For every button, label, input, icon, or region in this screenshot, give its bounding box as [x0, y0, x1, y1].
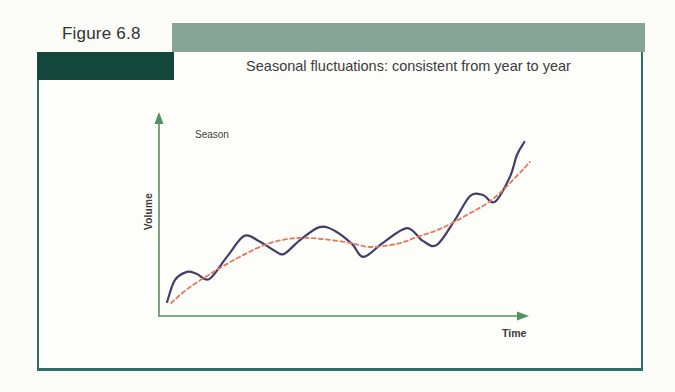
x-axis-label: Time [502, 327, 526, 339]
y-axis-label: Volume [143, 182, 154, 242]
header-accent-bar [172, 23, 645, 52]
header-dark-bar [37, 52, 174, 80]
figure-panel [37, 52, 643, 371]
season-annotation: Season [195, 129, 229, 140]
figure-title: Seasonal fluctuations: consistent from y… [172, 58, 645, 74]
figure-label: Figure 6.8 [62, 24, 141, 44]
